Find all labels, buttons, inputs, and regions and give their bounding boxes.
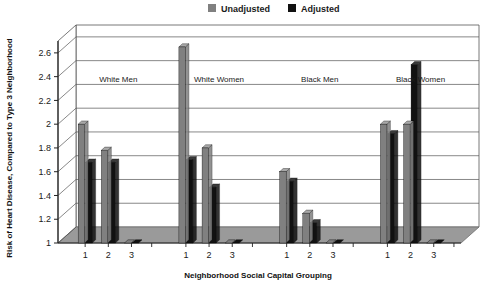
x-tick-label: 3: [230, 250, 235, 260]
x-tick-label: 1: [385, 250, 390, 260]
y-tick-label: 2.4: [38, 72, 51, 82]
bar-chart: Unadjusted Adjusted 11.21.41.61.822.22.4…: [0, 0, 496, 286]
bar-unadjusted-white-women-1: [179, 44, 189, 243]
bar-unadjusted-white-men-2: [101, 147, 111, 243]
legend-swatch-adjusted: [288, 4, 296, 12]
legend-label-unadjusted: Unadjusted: [221, 4, 270, 14]
group-label: Black Men: [301, 75, 338, 84]
y-tick-label: 2.2: [38, 96, 51, 106]
y-tick-label: 1: [46, 238, 51, 248]
y-tick-label: 1.4: [38, 191, 51, 201]
y-tick-label: 1.2: [38, 214, 51, 224]
x-axis-title: Neighborhood Social Capital Grouping: [184, 271, 332, 280]
x-tick-label: 2: [408, 250, 413, 260]
y-tick-label: 1.8: [38, 143, 51, 153]
x-tick-label: 3: [431, 250, 436, 260]
y-tick-label: 2.6: [38, 48, 51, 58]
legend-swatch-unadjusted: [208, 4, 216, 12]
y-axis-title: Risk of Heart Disease, Compared to Type …: [5, 38, 14, 258]
x-tick-label: 3: [330, 250, 335, 260]
x-tick-label: 2: [307, 250, 312, 260]
bar-unadjusted-black-men-2: [303, 210, 313, 243]
x-tick-label: 1: [183, 250, 188, 260]
x-tick-label: 1: [284, 250, 289, 260]
chart-root: Unadjusted Adjusted 11.21.41.61.822.22.4…: [0, 0, 496, 286]
y-tick-label: 1.6: [38, 167, 51, 177]
legend-label-adjusted: Adjusted: [301, 4, 340, 14]
bar-unadjusted-black-women-2: [404, 121, 414, 243]
group-label: Black Women: [396, 75, 445, 84]
x-tick-label: 2: [207, 250, 212, 260]
bar-unadjusted-black-men-1: [280, 169, 290, 243]
group-label: White Men: [99, 75, 137, 84]
x-tick-label: 3: [129, 250, 134, 260]
x-tick-label: 1: [83, 250, 88, 260]
bar-unadjusted-white-men-1: [78, 121, 88, 243]
x-tick-label: 2: [106, 250, 111, 260]
bar-unadjusted-black-women-1: [380, 121, 390, 243]
y-tick-label: 2: [46, 119, 51, 129]
group-label: White Women: [194, 75, 244, 84]
bar-unadjusted-white-women-2: [202, 145, 212, 243]
